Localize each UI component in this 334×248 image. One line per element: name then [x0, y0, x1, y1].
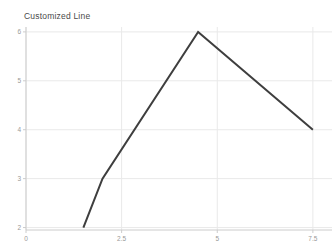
- y-tick-label: 3: [17, 175, 21, 182]
- x-tick-label: 0: [24, 235, 28, 242]
- line-chart: 2345602.557.5: [0, 0, 334, 248]
- x-tick-label: 5: [215, 235, 219, 242]
- y-tick-label: 4: [17, 126, 21, 133]
- chart-window: Customized Line 2345602.557.5: [0, 0, 334, 248]
- y-tick-label: 2: [17, 224, 21, 231]
- x-tick-label: 2.5: [117, 235, 126, 242]
- y-tick-label: 5: [17, 77, 21, 84]
- x-tick-label: 7.5: [308, 235, 317, 242]
- y-tick-label: 6: [17, 28, 21, 35]
